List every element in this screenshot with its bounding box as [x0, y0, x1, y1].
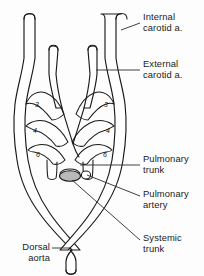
label-internal-carotid: Internal carotid a. [143, 12, 183, 33]
systemic-trunk-ostium [81, 171, 90, 179]
left-external-carotid [49, 46, 62, 108]
arch-number-right-3: 3 [104, 101, 108, 108]
right-internal-carotid-tip [116, 14, 127, 20]
label-pulmonary-artery: Pulmonary artery [143, 189, 189, 210]
label-systemic-trunk: Systemic trunk [143, 233, 182, 254]
arch-number-right-4: 4 [106, 127, 110, 134]
leader-internal-carotid [121, 23, 140, 30]
figure-canvas: 3 4 6 3 4 6 Internal carotid a. External… [0, 0, 204, 276]
central-midline-convergence-right [73, 108, 84, 144]
label-external-carotid: External carotid a. [143, 59, 183, 80]
arch-number-left-4: 4 [33, 127, 37, 134]
left-outer-vessel-wall [14, 14, 80, 250]
arch-number-left-3: 3 [35, 101, 39, 108]
arch-number-left-6: 6 [36, 151, 40, 158]
dorsal-aorta [66, 250, 76, 274]
pulmonary-trunk-ostium [60, 171, 81, 181]
label-dorsal-aorta: Dorsal aorta [2, 242, 50, 263]
label-pulmonary-trunk: Pulmonary trunk [143, 154, 189, 175]
arch-number-right-6: 6 [103, 151, 107, 158]
